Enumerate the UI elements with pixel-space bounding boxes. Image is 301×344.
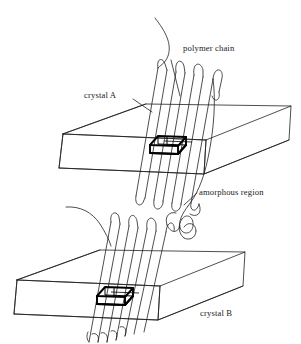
- leader-crystal-a: [133, 99, 152, 112]
- diagram-canvas: [0, 0, 301, 344]
- chain-stems-crystal-b: [89, 222, 166, 342]
- lamella-a-left-edge: [59, 134, 63, 168]
- label-crystal-b: crystal B: [200, 309, 232, 318]
- chain-folds-crystal-b-bottom: [87, 327, 126, 342]
- lamella-a-right-face: [204, 106, 291, 174]
- lamella-a-back-left-edge: [63, 104, 146, 134]
- free-chain-end-left: [66, 207, 111, 246]
- label-crystal-a: crystal A: [84, 91, 116, 100]
- label-polymer-chain: polymer chain: [183, 44, 234, 53]
- lamella-b-back-left-edge: [17, 250, 100, 280]
- lamella-b-mid-line: [17, 280, 160, 286]
- lamella-crystal-a: [59, 104, 291, 174]
- free-chain-end-top: [155, 18, 169, 68]
- chain-folds-crystal-b-top: [111, 213, 175, 232]
- tie-chain-amorphous-region: [166, 79, 214, 239]
- label-amorphous-region: amorphous region: [199, 188, 264, 197]
- polymer-morphology-diagram: polymer chain crystal A amorphous region…: [0, 0, 301, 344]
- lamella-b-left-edge: [14, 280, 17, 314]
